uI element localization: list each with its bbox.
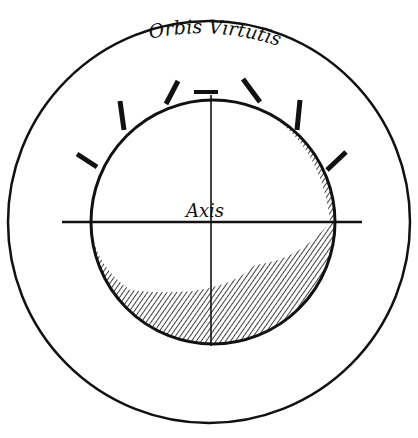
orbis-virtutis-diagram: Orbis Virtutis Axis — [0, 0, 418, 438]
sphere-shading — [80, 90, 350, 360]
diagram-canvas: Orbis Virtutis Axis — [0, 0, 418, 438]
title-text: Orbis Virtutis — [147, 15, 285, 50]
axis-label: Axis — [184, 200, 224, 221]
